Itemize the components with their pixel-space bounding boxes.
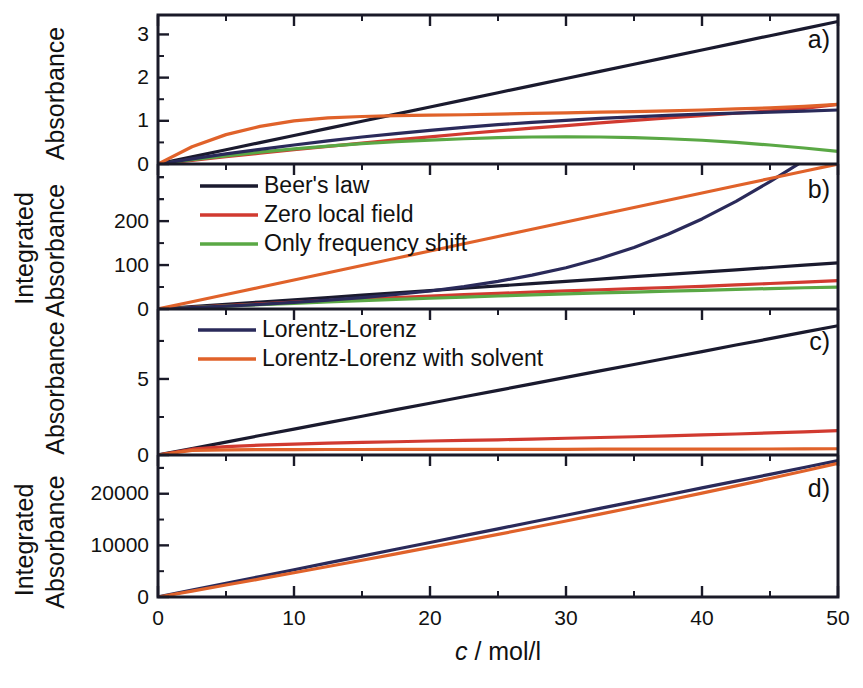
x-axis-title-variable: c [455,637,468,665]
y-tick-label: 200 [114,209,149,232]
y-tick-label: 10000 [91,533,149,556]
figure-container: 01020304050c / mol/l01230100200050100002… [0,0,863,688]
x-axis-title: c / mol/l [455,637,541,665]
y-tick-label: 3 [137,22,149,45]
y-axis-titles: AbsorbanceIntegratedAbsorbanceAbsorbance… [10,27,69,609]
multi-panel-line-chart: 01020304050c / mol/l01230100200050100002… [0,0,863,688]
y-tick-label: 20000 [91,481,149,504]
y-tick-label: 100 [114,253,149,276]
x-axis-title-units: / mol/l [467,637,541,665]
legend-label-only-frequency-shift: Only frequency shift [264,230,468,256]
x-tick-label: 40 [690,606,713,629]
curve-lorentz-lorenz [158,461,838,597]
legend-label-lorentz-lorenz-with-solvent: Lorentz-Lorenz with solvent [262,345,544,371]
y-tick-label: 2 [137,65,149,88]
legend-bottom: Lorentz-LorenzLorentz-Lorenz with solven… [198,316,544,371]
panel-tag-c: c) [809,327,830,355]
panel-tag-a: a) [808,25,830,53]
panel-a-curves [158,21,838,164]
legend-label-beer-s-law: Beer's law [264,172,370,198]
y-tick-label: 0 [137,585,149,608]
legend-label-zero-local-field: Zero local field [264,201,414,227]
x-tick-label: 30 [554,606,577,629]
y-axis-title-panel-d-line2: Absorbance [41,475,69,608]
y-tick-label: 0 [137,297,149,320]
x-tick-label: 20 [418,606,441,629]
y-axis-title-panel-c: Absorbance [41,321,69,454]
x-tick-label: 50 [826,606,849,629]
y-axis-title-panel-d-line1: Integrated [10,484,38,597]
y-tick-label: 1 [137,108,149,131]
panel-tag-b: b) [808,175,830,203]
y-axis-title-panel-a: Absorbance [41,27,69,160]
panel-d-curves [158,461,838,597]
y-axis-title-panel-b-line1: Integrated [10,192,38,305]
legend-top: Beer's lawZero local fieldOnly frequency… [200,172,468,256]
x-tick-label: 10 [282,606,305,629]
y-axis-title-panel-b-line2: Absorbance [41,184,69,317]
y-tick-label: 0 [137,443,149,466]
panel-tag-d: d) [808,474,830,502]
y-tick-label: 0 [137,152,149,175]
curve-lorentz-lorenz [158,135,838,309]
panel-b-curves [158,135,838,309]
x-tick-labels: 01020304050 [152,606,850,629]
legend-label-lorentz-lorenz: Lorentz-Lorenz [262,316,417,342]
y-tick-label: 5 [137,367,149,390]
x-tick-label: 0 [152,606,164,629]
